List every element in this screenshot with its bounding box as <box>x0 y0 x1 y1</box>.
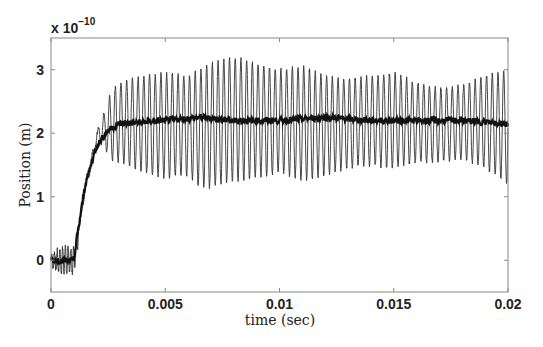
position-vs-time-chart: 00.0050.010.0150.02 0123 time (sec) Posi… <box>0 0 543 347</box>
y-scale-exponent: −10 <box>78 16 95 27</box>
y-scale-base: x 10 <box>51 20 78 36</box>
chart-background <box>0 0 543 347</box>
x-tick-label: 0.005 <box>148 296 183 312</box>
x-axis-label: time (sec) <box>245 312 315 328</box>
y-tick-label: 2 <box>36 125 44 141</box>
x-tick-label: 0.02 <box>494 296 521 312</box>
x-tick-label: 0.015 <box>376 296 411 312</box>
y-tick-label: 1 <box>36 189 44 205</box>
x-tick-label: 0.01 <box>266 296 293 312</box>
y-tick-label: 0 <box>36 252 44 268</box>
y-tick-label: 3 <box>36 62 44 78</box>
x-tick-label: 0 <box>47 296 55 312</box>
y-axis-label: Position (m) <box>17 122 33 207</box>
